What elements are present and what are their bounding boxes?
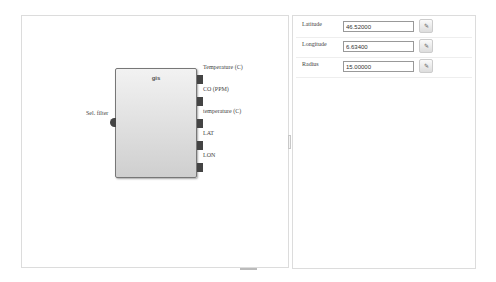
property-row-longitude: Longitude ✎ xyxy=(296,38,472,58)
input-label: Sel. filter xyxy=(86,110,108,116)
block-title: gis xyxy=(116,75,196,81)
panel-splitter-handle[interactable] xyxy=(288,135,291,149)
pencil-icon: ✎ xyxy=(424,23,429,29)
output-port-co[interactable] xyxy=(197,97,203,106)
output-label-temperature: Temperature (C) xyxy=(203,64,243,70)
radius-edit-button[interactable]: ✎ xyxy=(419,59,433,73)
output-label-co: CO (PPM) xyxy=(203,86,229,92)
input-port-sel-filter[interactable] xyxy=(110,118,116,127)
property-row-radius: Radius ✎ xyxy=(296,58,472,78)
output-label-lon: LON xyxy=(203,152,215,158)
radius-label: Radius xyxy=(302,61,319,67)
properties-panel: Latitude ✎ Longitude ✎ Radius ✎ xyxy=(292,15,476,269)
pencil-icon: ✎ xyxy=(424,43,429,49)
output-label-lat: LAT xyxy=(203,130,214,136)
longitude-edit-button[interactable]: ✎ xyxy=(419,39,433,53)
longitude-input[interactable] xyxy=(343,41,414,52)
output-port-lon[interactable] xyxy=(197,163,203,172)
longitude-label: Longitude xyxy=(302,41,327,47)
output-port-temperature[interactable] xyxy=(197,75,203,84)
horizontal-scrollbar[interactable] xyxy=(240,268,257,270)
gis-block[interactable]: gis xyxy=(115,68,197,178)
output-port-temperature-2[interactable] xyxy=(197,119,203,128)
radius-input[interactable] xyxy=(343,61,414,72)
latitude-label: Latitude xyxy=(302,21,322,27)
output-port-lat[interactable] xyxy=(197,141,203,150)
output-label-temperature-2: temperature (C) xyxy=(203,108,241,114)
pencil-icon: ✎ xyxy=(424,63,429,69)
latitude-input[interactable] xyxy=(343,21,414,32)
property-row-latitude: Latitude ✎ xyxy=(296,18,472,38)
latitude-edit-button[interactable]: ✎ xyxy=(419,19,433,33)
